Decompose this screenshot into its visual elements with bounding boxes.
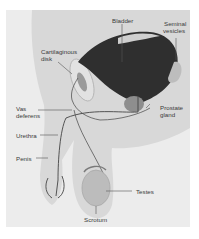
label-bladder: Bladder [112,17,133,24]
label-cartilaginous-disk-line2: disk [41,55,52,62]
testes [82,170,110,206]
label-seminal-vesicles-line2: vesicles [163,27,185,34]
label-penis: Penis [16,155,31,162]
label-prostate-gland-line2: gland [160,111,175,118]
prostate-gland [124,96,144,112]
label-urethra: Urethra [16,132,37,139]
label-vas-deferens-line2: deferens [16,112,40,119]
label-testes: Testes [136,188,154,195]
label-vas-deferens-line1: Vas [16,105,26,112]
label-seminal-vesicles-line1: Seminal [164,20,186,27]
label-cartilaginous-disk-line1: Cartilaginous [41,48,77,55]
label-prostate-gland-line1: Prostate [160,104,183,111]
label-scrotum: Scrotum [84,216,107,223]
anatomy-illustration [0,0,199,239]
